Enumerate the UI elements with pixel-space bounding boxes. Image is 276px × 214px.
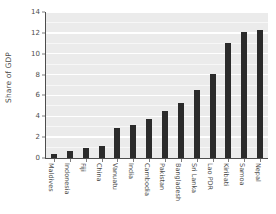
y-tick-label: 14	[31, 8, 40, 16]
x-tick-mark	[133, 159, 134, 162]
x-tick-label: Nepal	[252, 163, 264, 214]
x-tick-label: Cambodia	[141, 163, 153, 214]
bar	[114, 128, 120, 158]
x-tick-label: India	[125, 163, 137, 214]
x-tick-label: Pakistan	[156, 163, 168, 214]
x-tick-label: Maldives	[45, 163, 57, 214]
bar	[99, 146, 105, 159]
y-axis-tick-labels: 02468101214	[16, 12, 42, 159]
bar	[83, 148, 89, 158]
x-tick-mark	[149, 159, 150, 162]
x-tick-mark	[213, 159, 214, 162]
x-tick-label: Fiji	[77, 163, 89, 214]
x-tick-mark	[260, 159, 261, 162]
x-tick-label: Kiribati	[220, 163, 232, 214]
bar	[241, 32, 247, 158]
plot-panel	[46, 12, 268, 158]
y-tick-label: 10	[31, 50, 40, 58]
x-tick-label: Samoa	[236, 163, 248, 214]
y-tick-label: 8	[36, 71, 40, 79]
x-tick-mark	[117, 159, 118, 162]
bar	[225, 43, 231, 158]
x-tick-mark	[228, 159, 229, 162]
bar	[210, 74, 216, 158]
bar	[194, 90, 200, 158]
bar	[178, 103, 184, 158]
bar	[146, 119, 152, 158]
y-tick-label: 4	[36, 112, 40, 120]
x-axis-tick-labels: MaldivesIndonesiaFijiChinaVanuatuIndiaCa…	[46, 163, 268, 214]
x-tick-mark	[197, 159, 198, 162]
x-tick-label: Bangladesh	[172, 163, 184, 214]
x-tick-mark	[102, 159, 103, 162]
x-tick-mark	[244, 159, 245, 162]
bar-chart: Share of GDP 02468101214 MaldivesIndones…	[0, 0, 276, 214]
x-tick-mark	[181, 159, 182, 162]
x-tick-mark	[54, 159, 55, 162]
bar	[67, 151, 73, 158]
x-tick-label: Sri Lanka	[188, 163, 200, 214]
x-tick-mark	[70, 159, 71, 162]
y-tick-label: 12	[31, 29, 40, 37]
x-tick-mark	[86, 159, 87, 162]
x-tick-label: Lao PDR	[204, 163, 216, 214]
bar	[130, 125, 136, 158]
bar	[162, 111, 168, 158]
bars-group	[46, 12, 268, 158]
y-tick-label: 6	[36, 91, 40, 99]
x-tick-label: Indonesia	[61, 163, 73, 214]
y-tick-label: 0	[36, 154, 40, 162]
y-tick-label: 2	[36, 133, 40, 141]
y-axis-title: Share of GDP	[0, 0, 16, 155]
x-tick-mark	[165, 159, 166, 162]
x-tick-label: China	[93, 163, 105, 214]
bar	[51, 154, 57, 158]
x-axis-tick-marks	[46, 159, 268, 162]
x-tick-label: Vanuatu	[109, 163, 121, 214]
bar	[257, 30, 263, 158]
